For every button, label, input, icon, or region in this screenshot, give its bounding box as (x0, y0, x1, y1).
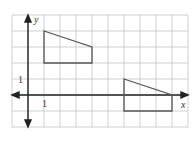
y-axis-label: y (33, 14, 39, 25)
x-axis-left-arrow-icon (12, 92, 19, 98)
y-axis (25, 15, 31, 127)
x-axis (12, 92, 188, 98)
y-axis-down-arrow-icon (25, 120, 31, 127)
y-axis-up-arrow-icon (25, 15, 31, 22)
y-tick-label: 1 (18, 74, 23, 85)
coordinate-plane: y x 1 1 (0, 0, 196, 141)
grid (12, 15, 188, 127)
x-tick-label: 1 (42, 98, 47, 109)
x-axis-right-arrow-icon (181, 92, 188, 98)
x-axis-label: x (180, 99, 186, 110)
